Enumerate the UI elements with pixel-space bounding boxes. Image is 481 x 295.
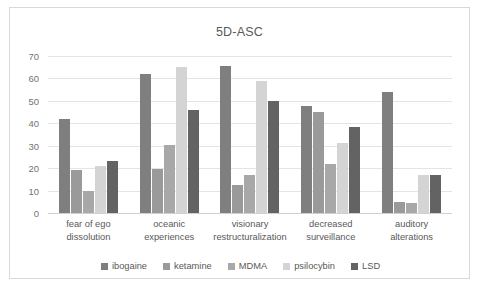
legend-label: LSD (362, 261, 380, 271)
bar-ibogaine-4[interactable] (382, 92, 393, 213)
bar-ketamine-1[interactable] (152, 169, 163, 213)
y-axis-tick-60: 60 (28, 73, 39, 84)
category-label-line: oceanic (129, 218, 210, 231)
y-axis-tick-30: 30 (28, 140, 39, 151)
bar-mdma-3[interactable] (325, 164, 336, 213)
category-label-line: surveillance (290, 231, 371, 244)
legend-item-ketamine[interactable]: ketamine (163, 261, 212, 271)
legend-label: ibogaine (112, 261, 147, 271)
legend-label: psilocybin (294, 261, 335, 271)
bar-psilocybin-3[interactable] (337, 143, 348, 213)
chart-title: 5D-ASC (10, 25, 469, 39)
y-axis-tick-0: 0 (34, 208, 39, 219)
bar-mdma-1[interactable] (164, 145, 175, 213)
gridline-0 (48, 213, 452, 214)
legend-item-psilocybin[interactable]: psilocybin (283, 261, 335, 271)
category-label-line: decreased (290, 218, 371, 231)
bar-mdma-2[interactable] (244, 175, 255, 213)
category-label-0: fear of egodissolution (48, 218, 129, 243)
legend-swatch-icon (101, 263, 108, 270)
y-axis-tick-20: 20 (28, 163, 39, 174)
y-axis-tick-10: 10 (28, 185, 39, 196)
bar-lsd-0[interactable] (107, 161, 118, 213)
bar-psilocybin-0[interactable] (95, 166, 106, 213)
category-label-line: alterations (371, 231, 452, 244)
category-label-1: oceanicexperiences (129, 218, 210, 243)
bar-group (48, 56, 129, 213)
bar-mdma-0[interactable] (83, 191, 94, 213)
chart-legend: ibogaineketamineMDMApsilocybinLSD (10, 261, 471, 271)
category-label-line: experiences (129, 231, 210, 244)
category-label-2: visionaryrestructuralization (210, 218, 291, 243)
category-label-line: visionary (210, 218, 291, 231)
bar-lsd-1[interactable] (188, 110, 199, 213)
legend-swatch-icon (163, 263, 170, 270)
legend-swatch-icon (351, 263, 358, 270)
bar-ibogaine-1[interactable] (140, 74, 151, 213)
legend-item-ibogaine[interactable]: ibogaine (101, 261, 147, 271)
bar-psilocybin-2[interactable] (256, 81, 267, 213)
y-axis: 706050403020100 (10, 56, 44, 213)
bar-group (210, 56, 291, 213)
legend-label: MDMA (239, 261, 267, 271)
bar-ketamine-3[interactable] (313, 112, 324, 213)
bar-ketamine-2[interactable] (232, 185, 243, 213)
bar-ibogaine-0[interactable] (59, 119, 70, 213)
legend-item-lsd[interactable]: LSD (351, 261, 380, 271)
category-label-line: fear of ego (48, 218, 129, 231)
category-label-line: auditory (371, 218, 452, 231)
bar-lsd-4[interactable] (430, 175, 441, 213)
bar-psilocybin-1[interactable] (176, 67, 187, 213)
bar-ibogaine-3[interactable] (301, 106, 312, 213)
category-label-3: decreasedsurveillance (290, 218, 371, 243)
plot-area (48, 56, 452, 213)
y-axis-tick-50: 50 (28, 95, 39, 106)
bar-ibogaine-2[interactable] (220, 66, 231, 213)
bar-group (129, 56, 210, 213)
y-axis-tick-70: 70 (28, 51, 39, 62)
bar-ketamine-4[interactable] (394, 202, 405, 213)
bar-lsd-2[interactable] (268, 101, 279, 213)
bar-psilocybin-4[interactable] (418, 175, 429, 213)
legend-swatch-icon (283, 263, 290, 270)
category-label-line: dissolution (48, 231, 129, 244)
category-label-4: auditoryalterations (371, 218, 452, 243)
legend-label: ketamine (174, 261, 212, 271)
bar-lsd-3[interactable] (349, 127, 360, 213)
bar-group (371, 56, 452, 213)
y-axis-tick-40: 40 (28, 118, 39, 129)
bar-ketamine-0[interactable] (71, 170, 82, 213)
category-axis: fear of egodissolutionoceanicexperiences… (48, 218, 452, 254)
legend-swatch-icon (228, 263, 235, 270)
bar-mdma-4[interactable] (406, 203, 417, 213)
legend-item-mdma[interactable]: MDMA (228, 261, 267, 271)
category-label-line: restructuralization (210, 231, 291, 244)
chart-frame: 5D-ASC 706050403020100 fear of egodissol… (9, 7, 470, 279)
bar-group (290, 56, 371, 213)
